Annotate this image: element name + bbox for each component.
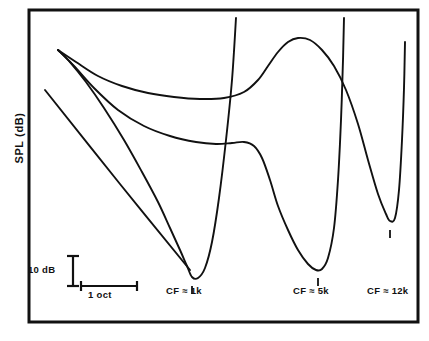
plot-area — [0, 0, 429, 341]
tuning-curve-3 — [45, 90, 190, 270]
vertical-scale-label: 10 dB — [28, 264, 55, 275]
cf-tick-group — [192, 230, 390, 294]
tuning-curve-0 — [58, 18, 236, 279]
tuning-curve-1 — [58, 18, 344, 271]
vertical-scale-bar — [67, 256, 79, 286]
horizontal-scale-label: 1 oct — [88, 289, 112, 300]
cf-label-1k: CF ≈ 1k — [166, 285, 202, 296]
tuning-curve-2 — [58, 38, 405, 222]
tuning-curve-figure: SPL (dB) 10 dB 1 oct CF ≈ 1k CF ≈ 5k CF … — [0, 0, 429, 341]
cf-label-5k: CF ≈ 5k — [293, 285, 329, 296]
cf-label-12k: CF ≈ 12k — [367, 285, 408, 296]
curve-group — [45, 18, 405, 279]
y-axis-label: SPL (dB) — [13, 93, 25, 183]
